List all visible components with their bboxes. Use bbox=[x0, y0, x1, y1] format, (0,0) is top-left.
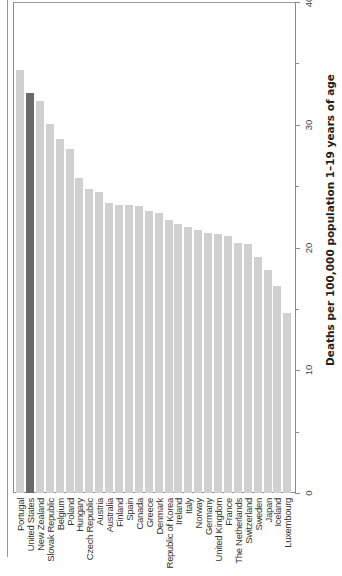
axis-tick-label: 0 bbox=[301, 486, 315, 500]
bar-greece bbox=[145, 211, 153, 493]
bar-chart: PortugalUnited StatesNew ZealandSlovak R… bbox=[0, 0, 342, 576]
bar-australia bbox=[105, 203, 113, 493]
value-axis-title: Deaths per 100,000 population 1–19 years… bbox=[324, 74, 336, 366]
category-label: United States bbox=[25, 498, 35, 576]
category-label: Canada bbox=[134, 498, 144, 576]
axis-tick bbox=[296, 2, 300, 3]
bar-ireland bbox=[174, 224, 182, 493]
bar-finland bbox=[115, 205, 123, 493]
category-label: Norway bbox=[193, 498, 203, 576]
category-label: Iceland bbox=[272, 498, 282, 576]
axis-tick-label: 10 bbox=[301, 363, 315, 377]
category-label: Luxembourg bbox=[282, 498, 292, 576]
bar-norway bbox=[194, 230, 202, 493]
bar-czech-republic bbox=[85, 189, 93, 493]
bar-spain bbox=[125, 205, 133, 493]
bar-the-netherlands bbox=[234, 243, 242, 493]
category-label: Finland bbox=[114, 498, 124, 576]
category-label: Sweden bbox=[253, 498, 263, 576]
bar-iceland bbox=[273, 286, 281, 493]
bar-belgium bbox=[56, 139, 64, 493]
category-label: Switzerland bbox=[243, 498, 253, 576]
bar-japan bbox=[264, 270, 272, 493]
category-label: United Kingdom bbox=[213, 498, 223, 576]
bar-united-kingdom bbox=[214, 234, 222, 493]
axis-tick bbox=[296, 370, 300, 371]
axis-tick-label: 40 bbox=[301, 0, 315, 9]
axis-tick bbox=[296, 63, 299, 64]
bar-canada bbox=[135, 206, 143, 493]
category-label: Spain bbox=[124, 498, 134, 576]
axis-tick bbox=[296, 248, 300, 249]
category-label: Austria bbox=[94, 498, 104, 576]
category-label: Republic of Korea bbox=[164, 498, 174, 576]
category-label: Italy bbox=[183, 498, 193, 576]
bar-denmark bbox=[155, 213, 163, 493]
category-label: Ireland bbox=[173, 498, 183, 576]
category-label: Japan bbox=[263, 498, 273, 576]
category-label: Denmark bbox=[154, 498, 164, 576]
bar-new-zealand bbox=[36, 101, 44, 493]
axis-tick-label: 30 bbox=[301, 118, 315, 132]
category-label: Germany bbox=[203, 498, 213, 576]
axis-tick bbox=[296, 125, 300, 126]
category-label: Slovak Republic bbox=[45, 498, 55, 576]
bar-slovak-republic bbox=[46, 124, 54, 493]
bar-portugal bbox=[16, 70, 24, 493]
bar-italy bbox=[184, 227, 192, 493]
bar-germany bbox=[204, 233, 212, 493]
category-label: Czech Republic bbox=[84, 498, 94, 576]
category-label: The Netherlands bbox=[233, 498, 243, 576]
axis-tick bbox=[296, 432, 299, 433]
category-label: France bbox=[223, 498, 233, 576]
category-label-text: Luxembourg bbox=[282, 498, 293, 548]
bar-austria bbox=[95, 192, 103, 493]
bar-france bbox=[224, 236, 232, 493]
bar-united-states bbox=[26, 93, 34, 493]
axis-tick bbox=[296, 186, 299, 187]
outer-border-line bbox=[7, 0, 8, 557]
category-label: Belgium bbox=[55, 498, 65, 576]
axis-tick-label: 20 bbox=[301, 241, 315, 255]
bar-luxembourg bbox=[283, 313, 291, 493]
category-label: Australia bbox=[104, 498, 114, 576]
category-label: Poland bbox=[65, 498, 75, 576]
category-label: Greece bbox=[144, 498, 154, 576]
category-label: Portugal bbox=[15, 498, 25, 576]
category-label: New Zealand bbox=[35, 498, 45, 576]
bar-hungary bbox=[75, 178, 83, 493]
bar-sweden bbox=[254, 257, 262, 493]
category-label: Hungary bbox=[74, 498, 84, 576]
axis-tick bbox=[296, 309, 299, 310]
bar-republic-of-korea bbox=[165, 220, 173, 493]
bar-poland bbox=[66, 149, 74, 493]
bar-switzerland bbox=[244, 244, 252, 493]
axis-tick bbox=[296, 493, 300, 494]
